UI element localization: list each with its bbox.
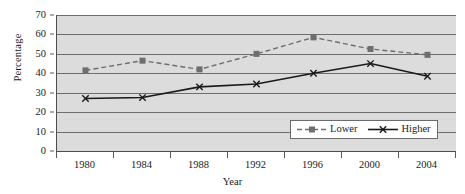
legend-label: Higher: [401, 124, 430, 135]
y-axis-tick-mark: [50, 151, 54, 152]
y-axis-tick-label: 60: [36, 29, 47, 40]
y-axis-tick-label: 10: [36, 126, 47, 137]
data-point-marker: [83, 67, 89, 73]
data-point-marker: [140, 58, 146, 64]
y-axis-tick-label: 70: [36, 10, 47, 21]
y-axis-tick-label: 0: [41, 146, 46, 157]
legend-entry-higher[interactable]: Higher: [368, 124, 430, 135]
series-line-higher: [86, 64, 428, 99]
x-axis-tick-mark: [284, 152, 285, 158]
y-axis-tick-label: 50: [36, 49, 47, 60]
x-axis-label: 1984: [131, 160, 152, 171]
y-axis-tick-label: 40: [36, 68, 47, 79]
data-point-marker: [368, 46, 374, 52]
x-axis-tick-mark: [170, 152, 171, 158]
solid-x-marker-swatch: [368, 124, 398, 135]
x-axis-tick-marks: [56, 152, 456, 158]
x-axis-tick-mark: [113, 152, 114, 158]
chart-legend: LowerHigher: [290, 120, 438, 139]
data-point-marker: [254, 51, 260, 57]
x-axis-label: 1980: [74, 160, 95, 171]
x-axis-label: 1988: [188, 160, 209, 171]
x-axis-label: 1992: [245, 160, 266, 171]
y-axis-tick-mark: [50, 131, 54, 132]
y-axis-tick-mark: [50, 34, 54, 35]
legend-entry-lower[interactable]: Lower: [297, 124, 357, 135]
y-axis-tick-mark: [50, 15, 54, 16]
x-axis-tick-mark: [455, 152, 456, 158]
y-axis-title: Percentage: [12, 8, 23, 108]
y-axis-ticks: 010203040506070: [24, 15, 50, 151]
x-axis-tick-mark: [341, 152, 342, 158]
y-axis-tick-mark: [50, 92, 54, 93]
x-axis-title: Year: [0, 176, 465, 187]
line-chart: Percentage 010203040506070 1980198419881…: [0, 0, 465, 194]
y-axis-tick-mark: [50, 73, 54, 74]
y-axis-tick-mark: [50, 53, 54, 54]
dashed-square-marker-swatch: [297, 124, 327, 135]
legend-label: Lower: [330, 124, 357, 135]
y-axis-tick-label: 20: [36, 107, 47, 118]
data-point-marker: [197, 66, 203, 72]
x-axis-label: 2000: [359, 160, 380, 171]
x-axis-label: 2004: [416, 160, 437, 171]
y-axis-tick-label: 30: [36, 87, 47, 98]
data-point-marker: [425, 52, 431, 58]
y-axis-tick-mark: [50, 112, 54, 113]
x-axis-tick-mark: [56, 152, 57, 158]
x-axis-label: 1996: [302, 160, 323, 171]
x-axis-labels: 1980198419881992199620002004: [56, 160, 456, 174]
x-axis-tick-mark: [398, 152, 399, 158]
data-point-marker: [311, 34, 317, 40]
x-axis-tick-mark: [227, 152, 228, 158]
